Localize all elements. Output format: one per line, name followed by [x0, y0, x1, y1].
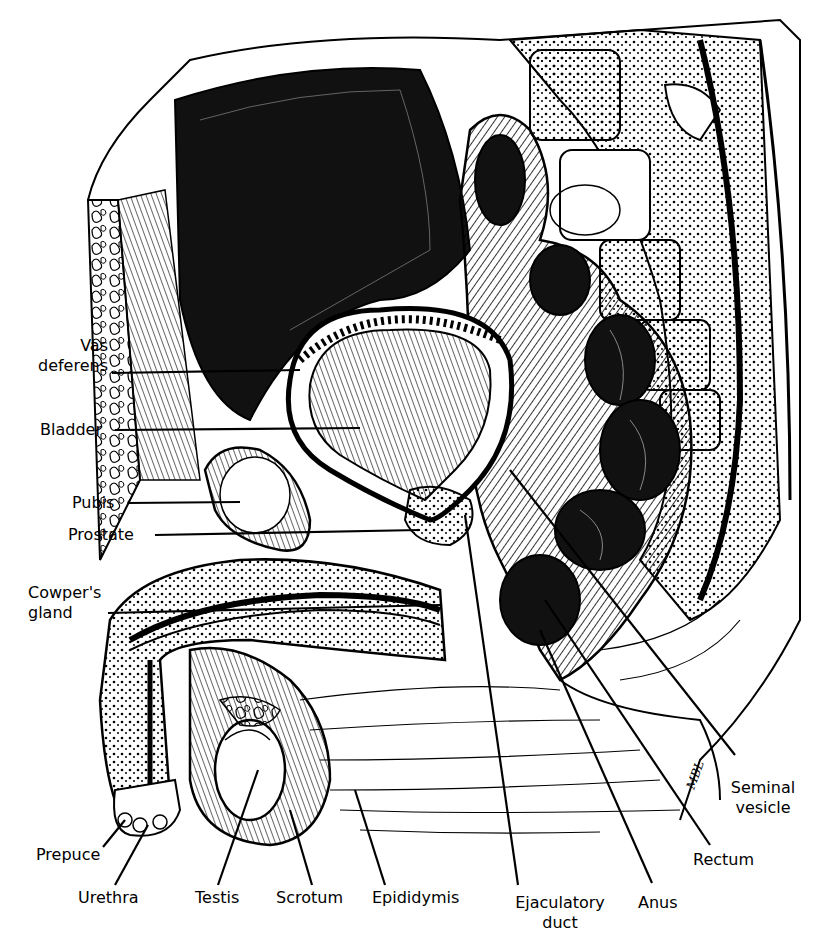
label-pubis: Pubis — [72, 493, 114, 513]
label-anus: Anus — [638, 893, 678, 913]
label-cowpers-line2: gland — [28, 603, 101, 623]
label-cowpers-line1: Cowper's — [28, 583, 101, 603]
label-vas-deferens-line2: deferens — [18, 356, 108, 376]
label-vas-deferens-line1: Vas — [18, 336, 108, 356]
label-vas-deferens: Vas deferens — [18, 336, 108, 376]
label-prepuce: Prepuce — [36, 845, 100, 865]
label-cowpers-gland: Cowper's gland — [28, 583, 101, 623]
anatomy-illustration: MBL — [0, 0, 819, 950]
label-bladder: Bladder — [40, 420, 102, 440]
label-rectum: Rectum — [693, 850, 754, 870]
label-testis: Testis — [195, 888, 239, 908]
label-seminal-line2: vesicle — [718, 798, 808, 818]
label-seminal-line1: Seminal — [718, 778, 808, 798]
label-prostate: Prostate — [68, 525, 134, 545]
label-ejaculatory-line2: duct — [505, 913, 615, 933]
label-epididymis: Epididymis — [372, 888, 459, 908]
label-urethra: Urethra — [78, 888, 139, 908]
artist-signature: MBL — [683, 759, 706, 792]
label-seminal-vesicle: Seminal vesicle — [718, 778, 808, 818]
label-scrotum: Scrotum — [276, 888, 343, 908]
label-ejaculatory-line1: Ejaculatory — [505, 893, 615, 913]
label-ejaculatory-duct: Ejaculatory duct — [505, 893, 615, 933]
